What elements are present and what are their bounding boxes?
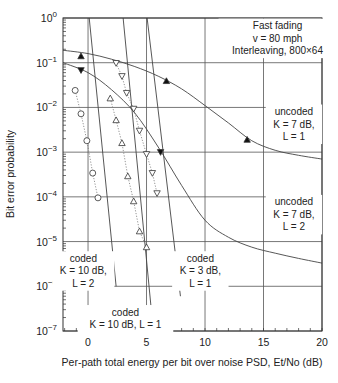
svg-text:K = 7 dB,: K = 7 dB, [273, 209, 314, 220]
annotation-label: uncodedK = 7 dB,L = 1 [266, 105, 322, 145]
svg-text:Interleaving, 800×64: Interleaving, 800×64 [232, 45, 323, 56]
svg-text:uncoded: uncoded [275, 106, 313, 117]
y-tick-label: 10−2 [36, 99, 57, 113]
annotation-label: uncodedK = 7 dB,L = 2 [266, 195, 322, 235]
svg-text:K = 7 dB,: K = 7 dB, [273, 119, 314, 130]
svg-text:L = 2: L = 2 [72, 278, 95, 289]
triangle-down-marker-icon [136, 128, 142, 134]
svg-text:v = 80 mph: v = 80 mph [253, 33, 303, 44]
svg-text:coded: coded [187, 253, 214, 264]
ber-chart: 10010−110−210−310−410−510−610−7 05101520… [0, 0, 338, 383]
annotation-label: Fast fadingv = 80 mphInterleaving, 800×6… [219, 19, 337, 59]
annotation-label: codedK = 10 dB, L = 1 [78, 305, 174, 332]
x-tick-label: 5 [144, 336, 150, 348]
y-tick-label: 10−7 [36, 323, 57, 337]
svg-text:coded: coded [70, 253, 97, 264]
circle-marker-icon [72, 87, 78, 93]
x-tick-label: 0 [85, 336, 91, 348]
circle-marker-icon [90, 170, 96, 176]
triangle-up-marker-icon [130, 198, 136, 204]
y-tick-label: 10−5 [36, 234, 57, 248]
annotation-label: codedK = 10 dB,L = 2 [52, 251, 114, 291]
svg-text:K = 10 dB, L = 1: K = 10 dB, L = 1 [90, 319, 162, 330]
triangle-up-marker-icon [107, 95, 113, 101]
x-axis-label: Per-path total energy per bit over noise… [62, 356, 323, 368]
series-uncoded-k-7-db-l-1-simulation- [78, 53, 251, 142]
triangle-up-marker-icon [125, 173, 131, 179]
svg-text:K = 3 dB,: K = 3 dB, [180, 265, 221, 276]
series-coded-k-10-db-l-1-theory- [123, 18, 152, 321]
triangle-down-marker-icon [143, 152, 149, 158]
triangle-down-marker-icon [154, 191, 160, 197]
y-tick-label: 10−1 [36, 55, 57, 69]
svg-text:coded: coded [112, 307, 139, 318]
x-tick-label: 15 [258, 336, 270, 348]
svg-text:L = 1: L = 1 [189, 278, 212, 289]
y-tick-label: 100 [41, 10, 58, 24]
triangle-down-marker-icon [123, 90, 129, 96]
x-tick-label: 20 [316, 336, 328, 348]
x-tick-labels: 05101520 [85, 336, 328, 348]
triangle-down-marker-icon [119, 74, 125, 80]
svg-text:uncoded: uncoded [275, 196, 313, 207]
circle-marker-icon [95, 195, 101, 201]
series-coded-k-3-db-l-1-simulation- [113, 61, 160, 197]
annotation-label: codedK = 3 dB,L = 1 [172, 251, 228, 291]
svg-text:K = 10 dB,: K = 10 dB, [60, 265, 107, 276]
svg-text:L = 1: L = 1 [283, 131, 306, 142]
triangle-up-marker-icon [119, 140, 125, 146]
svg-text:Fast fading: Fast fading [253, 20, 302, 31]
triangle-up-marker-icon [78, 53, 84, 59]
circle-marker-icon [84, 138, 90, 144]
triangle-up-marker-icon [113, 117, 119, 123]
series-coded-k-10-db-l-2-simulation- [72, 87, 101, 200]
x-tick-label: 10 [199, 336, 211, 348]
y-tick-label: 10−3 [36, 144, 57, 158]
triangle-down-marker-icon [149, 171, 155, 177]
circle-marker-icon [78, 111, 84, 117]
y-tick-label: 10−4 [36, 189, 57, 203]
svg-text:L = 2: L = 2 [283, 221, 306, 232]
triangle-down-marker-icon [113, 61, 119, 67]
y-axis-label: Bit error probability [4, 129, 16, 218]
triangle-up-marker-icon [136, 228, 142, 234]
triangle-up-marker-icon [143, 244, 149, 250]
